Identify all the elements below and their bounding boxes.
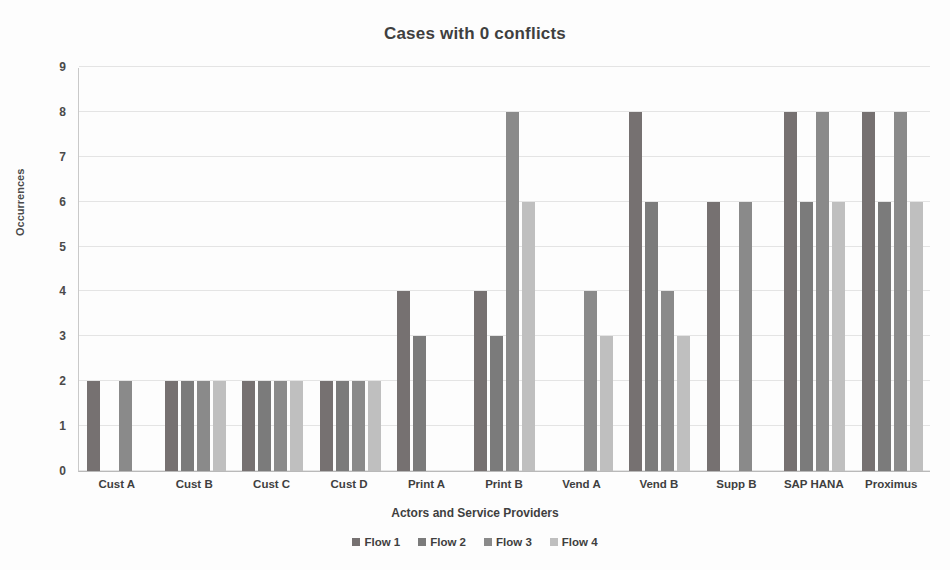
bar-slot	[397, 68, 410, 471]
y-axis-title: Occurrences	[14, 169, 26, 236]
bar-group	[699, 68, 776, 471]
bar[interactable]	[629, 112, 642, 471]
bar[interactable]	[352, 381, 365, 471]
bar[interactable]	[862, 112, 875, 471]
plot-area	[78, 68, 930, 472]
bar-slot	[878, 68, 891, 471]
bar[interactable]	[165, 381, 178, 471]
bar[interactable]	[490, 336, 503, 471]
y-axis-tick-label: 9	[26, 60, 66, 74]
y-axis-tick-label: 4	[26, 284, 66, 298]
bar[interactable]	[506, 112, 519, 471]
bar[interactable]	[800, 202, 813, 471]
bar-slot	[862, 68, 875, 471]
bar[interactable]	[413, 336, 426, 471]
bar[interactable]	[677, 336, 690, 471]
bar-slot	[242, 68, 255, 471]
x-axis-tick-label: Vend B	[620, 478, 697, 490]
x-axis-tick-label: Cust A	[78, 478, 155, 490]
bar[interactable]	[336, 381, 349, 471]
bar[interactable]	[368, 381, 381, 471]
bar[interactable]	[197, 381, 210, 471]
x-axis-tick-label: Proximus	[853, 478, 930, 490]
legend-entry[interactable]: Flow 1	[352, 536, 400, 548]
legend-label: Flow 4	[562, 536, 598, 548]
bar[interactable]	[910, 202, 923, 471]
y-axis-tick-label: 3	[26, 329, 66, 343]
legend-swatch-icon	[352, 538, 360, 546]
bar[interactable]	[258, 381, 271, 471]
bar-group	[79, 68, 156, 471]
bar[interactable]	[645, 202, 658, 471]
bar-slot	[352, 68, 365, 471]
bar[interactable]	[87, 381, 100, 471]
legend-label: Flow 3	[496, 536, 532, 548]
bar[interactable]	[878, 202, 891, 471]
bar-group	[311, 68, 388, 471]
bar[interactable]	[832, 202, 845, 471]
bar-group	[234, 68, 311, 471]
bar-slot	[103, 68, 116, 471]
bar-slot	[290, 68, 303, 471]
bar-slot	[87, 68, 100, 471]
bar[interactable]	[816, 112, 829, 471]
bar-slot	[368, 68, 381, 471]
bar[interactable]	[119, 381, 132, 471]
bar[interactable]	[320, 381, 333, 471]
bar-group	[156, 68, 233, 471]
bar[interactable]	[584, 291, 597, 471]
bar[interactable]	[784, 112, 797, 471]
bar[interactable]	[290, 381, 303, 471]
bar[interactable]	[213, 381, 226, 471]
bar-slot	[181, 68, 194, 471]
bar-slot	[629, 68, 642, 471]
bar[interactable]	[661, 291, 674, 471]
x-axis-tick-label: Cust D	[310, 478, 387, 490]
bar[interactable]	[181, 381, 194, 471]
bar[interactable]	[600, 336, 613, 471]
bar-slot	[755, 68, 768, 471]
x-axis-title: Actors and Service Providers	[0, 506, 950, 520]
bar[interactable]	[894, 112, 907, 471]
bar-slot	[135, 68, 148, 471]
bar-slot	[661, 68, 674, 471]
x-axis-tick-label: Print B	[465, 478, 542, 490]
bar-group	[466, 68, 543, 471]
bar[interactable]	[474, 291, 487, 471]
x-axis-tick-label: Vend A	[543, 478, 620, 490]
bar-group	[544, 68, 621, 471]
bar-slot	[552, 68, 565, 471]
bar-slot	[739, 68, 752, 471]
chart-legend: Flow 1Flow 2Flow 3Flow 4	[0, 536, 950, 548]
legend-swatch-icon	[418, 538, 426, 546]
bar-slot	[119, 68, 132, 471]
y-axis-tick-label: 6	[26, 195, 66, 209]
bar[interactable]	[739, 202, 752, 471]
x-axis-tick-label: Supp B	[698, 478, 775, 490]
bar-slot	[784, 68, 797, 471]
bar-slot	[645, 68, 658, 471]
bar[interactable]	[522, 202, 535, 471]
y-axis-tick-label: 7	[26, 150, 66, 164]
bar[interactable]	[242, 381, 255, 471]
bar[interactable]	[274, 381, 287, 471]
bar-slot	[894, 68, 907, 471]
bar-slot	[490, 68, 503, 471]
bar[interactable]	[397, 291, 410, 471]
bar-chart: Cases with 0 conflicts Occurrences 01234…	[0, 0, 950, 570]
x-axis-tick-label: Print A	[388, 478, 465, 490]
y-axis-tick-label: 0	[26, 464, 66, 478]
bar-slot	[723, 68, 736, 471]
legend-entry[interactable]: Flow 2	[418, 536, 466, 548]
x-axis-tick-label: Cust C	[233, 478, 310, 490]
bar-slot	[707, 68, 720, 471]
bar-slot	[165, 68, 178, 471]
bar[interactable]	[707, 202, 720, 471]
bar-slot	[522, 68, 535, 471]
bar-slot	[429, 68, 442, 471]
legend-entry[interactable]: Flow 3	[484, 536, 532, 548]
legend-entry[interactable]: Flow 4	[550, 536, 598, 548]
bar-slot	[568, 68, 581, 471]
bar-slot	[258, 68, 271, 471]
y-axis-tick-label: 2	[26, 374, 66, 388]
